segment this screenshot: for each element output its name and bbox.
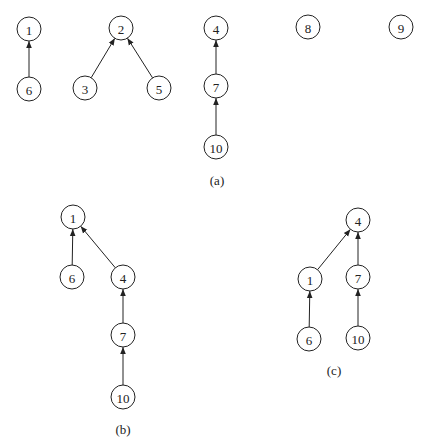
tree-node: 9 [389,15,413,39]
node-label: 5 [156,82,163,97]
node-label: 8 [305,21,312,36]
tree-node: 7 [204,74,228,98]
tree-node: 6 [297,327,321,351]
tree-node: 1 [61,205,85,229]
panel-caption-a: (a) [210,173,224,188]
parent-edge-a [127,38,152,78]
node-label: 10 [352,332,365,347]
node-label: 1 [26,23,33,38]
tree-node: 2 [109,16,133,40]
tree-node: 6 [17,77,41,101]
node-label: 3 [82,82,89,97]
node-label: 1 [307,273,314,288]
node-label: 2 [118,22,125,37]
node-label: 9 [398,21,405,36]
parent-edge-a [91,38,115,77]
panel-caption-c: (c) [327,363,341,378]
node-label: 4 [355,214,362,229]
node-label: 6 [26,83,33,98]
tree-node: 10 [346,326,370,350]
tree-node: 6 [60,265,84,289]
node-label: 6 [69,271,76,286]
node-label: 6 [306,333,313,348]
tree-node: 10 [111,385,135,409]
tree-node: 1 [17,17,41,41]
nodes-layer: 16235471089164710417610 [17,15,413,409]
node-label: 4 [213,22,220,37]
tree-node: 3 [73,76,97,100]
tree-node: 4 [204,16,228,40]
tree-node: 5 [147,76,171,100]
node-label: 10 [210,141,223,156]
tree-node: 1 [298,267,322,291]
tree-node: 7 [111,323,135,347]
tree-node: 7 [346,265,370,289]
node-label: 7 [120,329,127,344]
captions-layer: (a)(b)(c) [115,173,341,437]
node-label: 1 [70,211,77,226]
parent-edge-b [81,226,116,268]
tree-node: 8 [296,15,320,39]
tree-node: 4 [111,265,135,289]
node-label: 7 [355,271,362,286]
panel-caption-b: (b) [115,422,130,437]
node-label: 10 [117,391,130,406]
union-find-forest-diagram: 16235471089164710417610 (a)(b)(c) [0,0,427,437]
node-label: 7 [213,80,220,95]
node-label: 4 [120,271,127,286]
parent-edge-c [318,229,351,269]
tree-node: 10 [204,135,228,159]
parent-edge-b [72,229,73,265]
parent-edge-c [309,291,310,327]
tree-node: 4 [346,208,370,232]
